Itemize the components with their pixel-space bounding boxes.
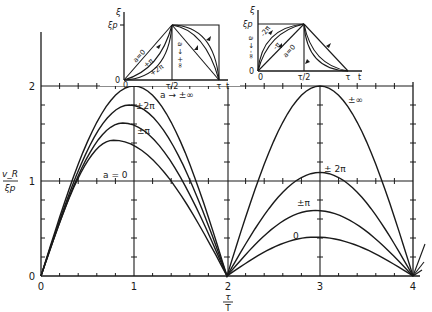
inset2-origin-y: 0: [249, 67, 254, 76]
label-2pi: ±2π: [136, 101, 155, 111]
inset2-xi-label: ξ: [249, 5, 256, 15]
x-tick-4: 4: [410, 281, 416, 292]
curve-a-0: [41, 140, 413, 276]
y-tick-0: 0: [29, 271, 35, 282]
label-a-0: a = 0: [103, 170, 128, 180]
inset2-xip-label: ξp: [242, 20, 253, 29]
label-0-2: 0: [293, 231, 299, 241]
x-axis-title: τ T: [223, 292, 233, 312]
inset1-xi-label: ξ: [115, 7, 122, 17]
y-tick-labels: 0 1 2: [29, 81, 35, 282]
y-tick-2: 2: [29, 81, 35, 92]
inset2-inf: a → -∞: [247, 36, 255, 59]
inset2-tau: τ: [346, 73, 351, 82]
x-tick-labels: 0 1 2 3 4: [38, 281, 416, 292]
inset2-half-tau: τ/2: [298, 73, 311, 82]
x-tick-0: 0: [38, 281, 44, 292]
inset1-tau: τ: [217, 82, 222, 91]
inset1-origin-x: 0: [123, 81, 128, 90]
inset1-origin-y: 0: [115, 76, 120, 85]
y-axis-title: v_R ξp: [2, 169, 18, 193]
resonance-chart: 0 1 2 3 4 0 1 2 v_R ξp τ T a → ±∞ ±2π ±π…: [0, 0, 432, 312]
inset1-inf: a → +∞: [176, 42, 184, 68]
y-title-numerator: v_R: [2, 169, 18, 179]
y-tick-1: 1: [29, 176, 35, 187]
inset1-t: t: [226, 82, 229, 91]
inset-left: ξ ξp 0 0 τ/2 τ t a=0 +π +2π a → +∞: [100, 0, 240, 91]
x-title-numerator: τ: [225, 292, 231, 302]
inset2-t: t: [358, 73, 361, 82]
label-pi: ±π: [137, 126, 151, 136]
x-title-denominator: T: [224, 303, 231, 312]
label-pi-2: ±π: [297, 198, 311, 208]
label-inf-2: ±∞: [348, 95, 363, 105]
inset1-xip-label: ξp: [107, 21, 118, 30]
x-tick-1: 1: [131, 281, 137, 292]
y-title-denominator: ξp: [4, 183, 16, 193]
curve-labels: a → ±∞ ±2π ±π a = 0 ±∞ ± 2π ±π 0: [103, 90, 363, 241]
inset2-origin-x: 0: [258, 73, 263, 82]
x-tick-2: 2: [225, 281, 231, 292]
inset-right: ξ ξp 0 0 τ/2 τ t -2π -π a=0 a → -∞: [240, 0, 380, 82]
x-tick-3: 3: [317, 281, 323, 292]
inset1-half-tau: τ/2: [166, 82, 179, 91]
label-2pi-2: ± 2π: [324, 164, 346, 174]
label-a-inf: a → ±∞: [160, 90, 194, 100]
curve-a-2pi: [41, 105, 413, 276]
